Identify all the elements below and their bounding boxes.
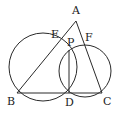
label-C: C	[103, 95, 111, 108]
label-P: P	[67, 36, 75, 49]
label-A: A	[71, 4, 81, 17]
label-E: E	[51, 28, 59, 41]
geometry-diagram: A B C D E F P	[0, 0, 120, 116]
label-D: D	[65, 96, 74, 109]
segment-AB	[17, 21, 76, 93]
circle-right	[59, 45, 111, 97]
label-F: F	[85, 31, 93, 44]
label-B: B	[7, 95, 15, 108]
